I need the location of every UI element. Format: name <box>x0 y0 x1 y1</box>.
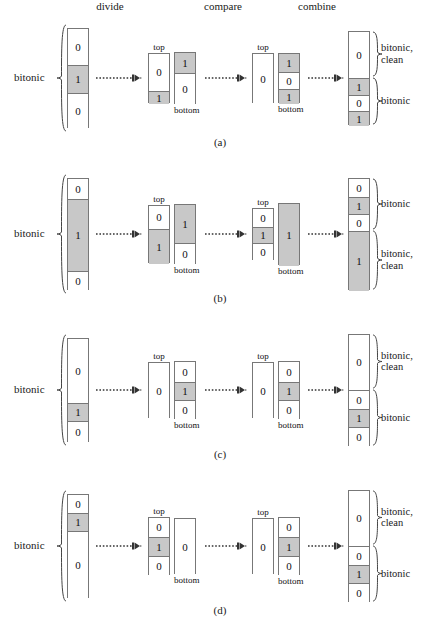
compare-bottom-column: 101 <box>278 53 300 103</box>
stage-headers: dividecomparecombine <box>0 0 440 16</box>
compare-top-column: 0 <box>252 53 274 103</box>
divide-bottom-column-cell-2: 0 <box>175 400 195 420</box>
panel-letter: (b) <box>0 292 440 304</box>
compare-top-column: 010 <box>252 208 274 260</box>
panel-d: 010bitonic0100topbottom0010topbottom0010… <box>0 468 440 624</box>
combine-column-cell-1: 0 <box>349 390 369 409</box>
panel-body: 010bitonic0100topbottom0010topbottom0010… <box>0 468 440 608</box>
divide-bottom-caption: bottom <box>174 575 196 585</box>
input-column-cell-0: 0 <box>68 495 88 513</box>
compare-bottom-caption: bottom <box>278 576 300 586</box>
divide-top-column-cell-0: 0 <box>149 54 169 91</box>
compare-top-column-cell-0: 0 <box>253 54 273 104</box>
connector-combine <box>308 229 344 238</box>
panel-letter: (c) <box>0 448 440 460</box>
connector-divide <box>96 229 142 238</box>
panel-body: 010bitonic0110topbottom0101topbottom0101… <box>0 156 440 296</box>
connector-combine <box>308 385 344 394</box>
input-column-cell-1: 1 <box>68 513 88 531</box>
divide-top-column-cell-1: 1 <box>149 229 169 264</box>
connector-compare <box>205 229 247 238</box>
divide-top-column: 01 <box>148 205 170 263</box>
compare-top-caption: top <box>252 507 274 517</box>
divide-bottom-column: 10 <box>174 52 196 104</box>
divide-top-caption: top <box>148 194 170 204</box>
combine-group-label-1: bitonic <box>381 95 437 107</box>
panel-letter: (a) <box>0 136 440 148</box>
compare-bottom-column-cell-0: 0 <box>279 518 299 537</box>
compare-top-column: 0 <box>252 362 274 418</box>
stage-header-compare: compare <box>190 0 256 12</box>
divide-top-column-cell-2: 0 <box>149 556 169 576</box>
combine-column-cell-0: 0 <box>349 32 369 78</box>
input-column: 010 <box>67 494 89 598</box>
compare-top-caption: top <box>252 351 274 361</box>
compare-top-column-cell-1: 1 <box>253 227 273 243</box>
combine-column-cell-2: 1 <box>349 565 369 583</box>
combine-group-label-0: bitonic <box>381 198 437 210</box>
combine-column-cell-3: 0 <box>349 427 369 447</box>
combine-column-cell-2: 1 <box>349 409 369 427</box>
combine-column-cell-0: 0 <box>349 491 369 546</box>
combine-group-label-1: bitonic <box>381 412 437 424</box>
divide-top-column: 0 <box>148 362 170 418</box>
connector-divide <box>96 541 142 550</box>
compare-bottom-column: 1 <box>278 203 300 265</box>
divide-top-column: 01 <box>148 53 170 103</box>
connector-combine <box>308 541 344 550</box>
combine-column: 0101 <box>348 31 370 125</box>
input-label: bitonic <box>14 539 45 551</box>
input-column-cell-1: 1 <box>68 65 88 93</box>
divide-bottom-column-cell-0: 1 <box>175 205 195 243</box>
combine-column-cell-0: 0 <box>349 179 369 197</box>
compare-top-column-cell-0: 0 <box>253 209 273 227</box>
input-brace <box>56 334 67 446</box>
combine-column-cell-1: 1 <box>349 78 369 95</box>
divide-top-caption: top <box>148 42 170 52</box>
compare-top-column-cell-0: 0 <box>253 363 273 419</box>
panel-letter: (d) <box>0 604 440 616</box>
compare-bottom-column-cell-2: 0 <box>279 556 299 576</box>
connector-compare <box>205 385 247 394</box>
compare-bottom-column: 010 <box>278 361 300 419</box>
divide-bottom-column-cell-1: 0 <box>175 243 195 265</box>
input-column-cell-2: 0 <box>68 93 88 129</box>
connector-divide <box>96 73 142 82</box>
compare-bottom-column-cell-1: 0 <box>279 72 299 89</box>
input-column-cell-2: 0 <box>68 271 88 291</box>
panel-a: dividecomparecombine010bitonic0110topbot… <box>0 0 440 156</box>
compare-top-column: 0 <box>252 518 274 574</box>
compare-top-column-cell-2: 0 <box>253 243 273 261</box>
compare-bottom-column-cell-0: 0 <box>279 362 299 382</box>
divide-bottom-caption: bottom <box>174 265 196 275</box>
combine-column-cell-2: 0 <box>349 214 369 231</box>
stage-header-combine: combine <box>285 0 349 12</box>
combine-column-cell-1: 1 <box>349 197 369 214</box>
divide-bottom-column: 010 <box>174 361 196 419</box>
connector-compare <box>205 541 247 550</box>
combine-column: 0010 <box>348 490 370 602</box>
input-column-cell-2: 0 <box>68 531 88 599</box>
input-brace <box>56 490 67 602</box>
input-column-cell-1: 1 <box>68 403 88 421</box>
input-column: 010 <box>67 338 89 442</box>
divide-top-column-cell-0: 0 <box>149 206 169 229</box>
combine-column-cell-3: 1 <box>349 111 369 126</box>
combine-column-cell-2: 0 <box>349 95 369 111</box>
stage-header-divide: divide <box>80 0 140 12</box>
combine-group-label-1: bitonic <box>381 568 437 580</box>
panel-body: dividecomparecombine010bitonic0110topbot… <box>0 0 440 140</box>
bitonic-merge-figure: dividecomparecombine010bitonic0110topbot… <box>0 0 440 624</box>
connector-compare <box>205 73 247 82</box>
combine-column: 0101 <box>348 178 370 290</box>
input-column-cell-1: 1 <box>68 199 88 271</box>
combine-group-label-0: bitonic, clean <box>381 42 437 65</box>
input-label: bitonic <box>14 227 45 239</box>
compare-bottom-column-cell-0: 1 <box>279 54 299 72</box>
input-brace <box>56 174 67 294</box>
input-column: 010 <box>67 28 89 128</box>
divide-top-caption: top <box>148 506 170 516</box>
input-column-cell-0: 0 <box>68 179 88 199</box>
divide-bottom-caption: bottom <box>174 105 196 115</box>
divide-top-column-cell-1: 1 <box>149 91 169 104</box>
